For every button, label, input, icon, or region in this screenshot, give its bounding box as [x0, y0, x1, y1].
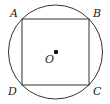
vertex-label-c: C [93, 85, 102, 98]
vertex-label-d: D [7, 85, 17, 98]
geometry-diagram: A B C D O [0, 0, 110, 104]
vertex-label-b: B [92, 7, 101, 20]
vertex-label-a: A [9, 7, 18, 20]
center-label-o: O [45, 53, 54, 66]
center-point [54, 50, 58, 54]
